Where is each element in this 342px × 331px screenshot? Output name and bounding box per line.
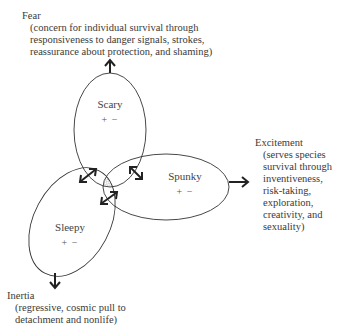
excitement-desc-line: inventiveness, bbox=[255, 173, 332, 185]
node-signs-spunky: + − bbox=[160, 186, 210, 197]
node-name-scary: Scary bbox=[90, 98, 130, 110]
fear-desc-line: reassurance about protection, and shamin… bbox=[22, 46, 212, 58]
fear-desc-line: responsiveness to danger signals, stroke… bbox=[22, 34, 212, 46]
arrow-right-icon bbox=[229, 177, 248, 187]
node-signs-scary: + − bbox=[90, 114, 130, 125]
excitement-desc-line: creativity, and bbox=[255, 209, 332, 221]
scary-ellipse bbox=[74, 73, 146, 187]
excitement-desc-line: survival through bbox=[255, 161, 332, 173]
fear-label: Fear (concern for individual survival th… bbox=[22, 10, 212, 58]
fear-desc-line: (concern for individual survival through bbox=[22, 22, 212, 34]
node-name-spunky: Spunky bbox=[160, 170, 210, 182]
double-arrow-scary-sleepy-icon bbox=[80, 169, 96, 182]
inertia-title: Inertia bbox=[7, 290, 34, 301]
arrow-up-icon bbox=[105, 60, 115, 73]
excitement-desc-line: sexuality) bbox=[255, 221, 332, 233]
excitement-title: Excitement bbox=[255, 137, 303, 148]
node-name-sleepy: Sleepy bbox=[45, 221, 95, 233]
excitement-label: Excitement (serves species survival thro… bbox=[255, 137, 332, 233]
excitement-desc-line: (serves species bbox=[255, 149, 332, 161]
inertia-desc-line: (regressive, cosmic pull to bbox=[7, 302, 126, 314]
inertia-desc-line: detachment and nonlife) bbox=[7, 314, 126, 326]
excitement-desc-line: exploration, bbox=[255, 197, 332, 209]
fear-title: Fear bbox=[22, 10, 41, 21]
excitement-desc-line: risk-taking, bbox=[255, 185, 332, 197]
arrow-down-icon bbox=[50, 273, 60, 288]
inertia-label: Inertia (regressive, cosmic pull to deta… bbox=[7, 290, 126, 326]
node-signs-sleepy: + − bbox=[45, 237, 95, 248]
